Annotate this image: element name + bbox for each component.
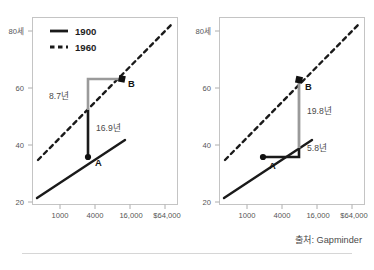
bottom-divider [22,253,352,254]
y-tick-label-40: 40 [203,141,211,150]
source-note: 출처: Gapminder [0,232,362,246]
x-tick-label-4000: 4000 [87,211,104,220]
plot-frame [33,18,178,205]
x-tick-label-16000: 16,000 [306,211,329,220]
right-chart-svg: 80세 60 40 20 1000 4000 16,000 $64,000 A [187,0,374,222]
figure-container: 80세 60 40 20 1000 4000 16,000 $64,000 [0,0,374,270]
y-tick-label-80: 80세 [196,27,211,36]
annotation-label-black: 5.8년 [307,143,327,153]
point-label-a: A [269,160,276,171]
annotation-label-gray: 8.7년 [49,91,69,101]
point-marker-a [260,154,266,160]
point-label-b: B [305,81,312,92]
y-tick-label-80: 80세 [9,27,24,36]
point-marker-b [295,76,303,84]
left-chart-svg: 80세 60 40 20 1000 4000 16,000 $64,000 [0,0,187,222]
x-tick-label-16000: 16,000 [119,211,142,220]
plot-frame [220,18,365,205]
y-tick-label-20: 20 [203,198,211,207]
annotation-label-gray: 19.8년 [307,106,332,116]
legend-label-1900: 1900 [75,26,96,37]
y-tick-label-20: 20 [16,198,24,207]
x-tick-label-64000: $64,000 [153,211,180,220]
y-tick-label-40: 40 [16,141,24,150]
point-marker-b [118,75,126,83]
point-label-a: A [95,157,102,168]
point-marker-a [85,154,91,160]
x-tick-label-4000: 4000 [274,211,291,220]
x-tick-label-64000: $64,000 [340,211,367,220]
y-tick-label-60: 60 [16,84,24,93]
chart-panel-right: 80세 60 40 20 1000 4000 16,000 $64,000 A [187,0,374,222]
chart-panel-left: 80세 60 40 20 1000 4000 16,000 $64,000 [0,0,187,222]
legend-label-1960: 1960 [75,42,96,53]
annotation-label-black: 16.9년 [96,123,121,133]
y-tick-label-60: 60 [203,84,211,93]
x-tick-label-1000: 1000 [52,211,69,220]
x-tick-label-1000: 1000 [239,211,256,220]
point-label-b: B [128,78,135,89]
